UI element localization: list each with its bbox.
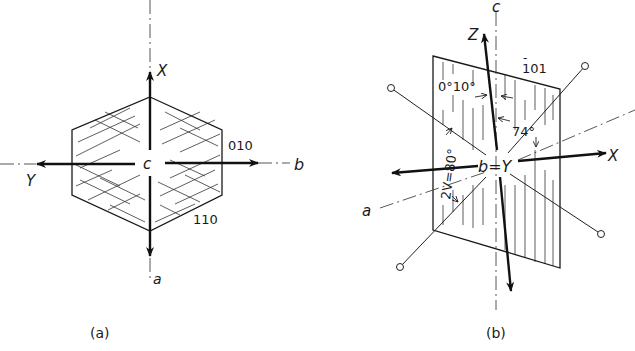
panel-b: c Z X a b=Y - 101 0°10° 74° 2V=80° (b): [362, 0, 635, 341]
z-c-angle-arrow: [498, 118, 510, 121]
extinction-arrow-left: [475, 95, 487, 97]
optic-axis-1: [391, 88, 486, 155]
optic-axis-1-end-upper: [388, 85, 395, 92]
label-a: a: [362, 202, 371, 220]
x-angle-label: 74°: [512, 124, 535, 139]
plane-label-digits: 101: [522, 61, 547, 76]
x-arrow-left: [392, 166, 478, 173]
x-arrow: [518, 153, 606, 161]
label-z: Z: [467, 26, 479, 44]
label-c: c: [492, 0, 501, 16]
plane-label: - 101: [522, 51, 547, 76]
label-x: X: [607, 147, 619, 165]
extinction-arrow-right: [501, 96, 513, 98]
label-b: b: [294, 155, 304, 174]
label-b-equals-y: b=Y: [478, 157, 513, 176]
mineral-optics-figure: X Y b a c 010 110 (a): [0, 0, 635, 351]
extinction-angle-label: 0°10°: [438, 79, 476, 94]
label-c: c: [143, 155, 152, 173]
panel-a: X Y b a c 010 110 (a): [0, 0, 304, 341]
label-a: a: [153, 271, 162, 287]
optic-axis-1-end-lower: [598, 231, 605, 238]
optic-axis-2-end-lower: [397, 264, 404, 271]
caption-b: (b): [486, 325, 506, 341]
optic-angle-label: 2V=80°: [438, 148, 460, 201]
z-arrow-lower: [500, 177, 511, 291]
optic-axis-2-end-upper: [582, 63, 589, 70]
label-y: Y: [26, 172, 37, 190]
label-x: X: [156, 62, 168, 80]
face-label-010: 010: [228, 138, 253, 153]
face-label-110: 110: [193, 212, 218, 227]
caption-a: (a): [90, 325, 110, 341]
z-arrow: [484, 34, 497, 150]
